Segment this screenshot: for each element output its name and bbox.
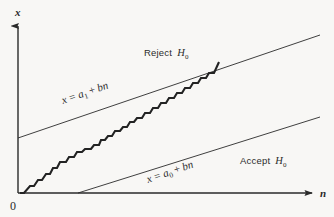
upper-eq-equals: = [67, 90, 77, 103]
upper-boundary-equation: x=a1+bn [59, 79, 111, 109]
boundaries-group [18, 35, 320, 193]
sprt-figure: x n 0 RejectH0 AcceptH0 x=a1+bn x=a0+bn [0, 0, 334, 217]
accept-text: Accept [240, 155, 270, 166]
reject-text: Reject [144, 47, 172, 58]
origin-label: 0 [10, 199, 16, 213]
region-label-reject: RejectH0 [144, 47, 189, 61]
region-label-accept: AcceptH0 [240, 155, 287, 169]
reject-hypothesis-sub: 0 [185, 53, 189, 61]
accept-hypothesis-sub: 0 [283, 161, 287, 169]
lower-eq-equals: = [152, 169, 162, 182]
figure-canvas: x n 0 RejectH0 AcceptH0 x=a1+bn x=a0+bn [0, 0, 334, 217]
x-axis-label: n [320, 187, 326, 199]
lower-eq-lhs: x [144, 172, 154, 185]
lower-boundary-line [78, 117, 320, 193]
y-axis-label: x [14, 6, 21, 18]
upper-eq-lhs: x [59, 93, 69, 106]
lower-eq-slope-term: bn [180, 158, 195, 173]
axes-group: x n 0 [10, 6, 326, 213]
upper-eq-slope-term: bn [95, 79, 110, 94]
lower-boundary-equation: x=a0+bn [144, 158, 196, 188]
